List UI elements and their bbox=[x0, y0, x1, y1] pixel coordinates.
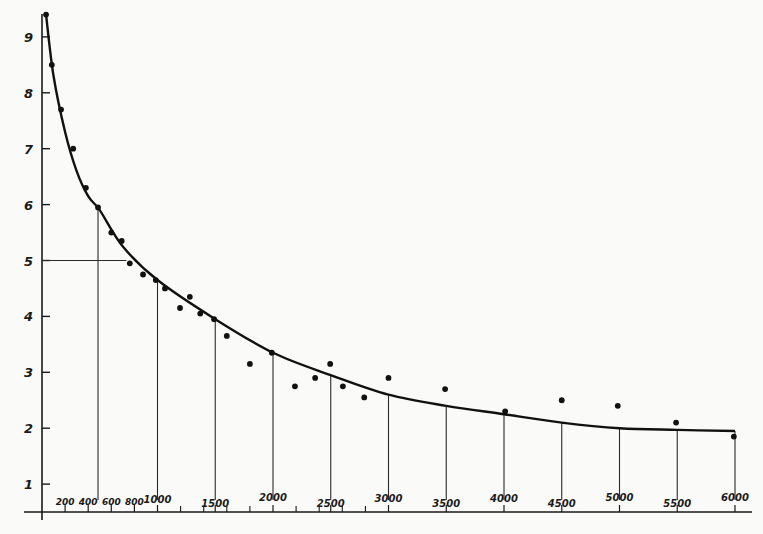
chart: 123456789 200400600800100015002000250030… bbox=[0, 0, 763, 534]
data-point bbox=[43, 12, 49, 18]
data-point bbox=[502, 409, 508, 415]
x-tick-label: 400 bbox=[78, 497, 98, 507]
data-point bbox=[312, 375, 318, 381]
fitted-curve bbox=[46, 15, 735, 431]
data-points bbox=[43, 12, 737, 440]
data-point bbox=[95, 204, 101, 210]
data-point bbox=[559, 397, 565, 403]
data-point bbox=[127, 260, 133, 266]
data-point bbox=[70, 146, 76, 152]
data-point bbox=[340, 383, 346, 389]
data-point bbox=[187, 294, 193, 300]
x-tick-label: 200 bbox=[56, 497, 75, 507]
y-tick-label: 7 bbox=[24, 142, 34, 157]
data-point bbox=[327, 361, 333, 367]
x-ticks: 2004006008001000150020002500300035004000… bbox=[56, 492, 749, 512]
data-point bbox=[361, 395, 367, 401]
y-tick-label: 5 bbox=[24, 254, 33, 269]
y-tick-label: 9 bbox=[24, 30, 33, 45]
data-point bbox=[247, 361, 253, 367]
data-point bbox=[615, 403, 621, 409]
y-tick-label: 6 bbox=[24, 198, 33, 213]
data-point bbox=[119, 238, 125, 244]
y-tick-label: 1 bbox=[24, 477, 33, 492]
drop-lines bbox=[98, 208, 735, 500]
y-tick-label: 3 bbox=[24, 365, 33, 380]
data-point bbox=[442, 386, 448, 392]
data-point bbox=[153, 277, 159, 283]
y-tick-label: 8 bbox=[24, 86, 33, 101]
data-point bbox=[49, 62, 55, 68]
data-point bbox=[83, 185, 89, 191]
y-tick-label: 2 bbox=[24, 421, 33, 436]
data-point bbox=[177, 305, 183, 311]
x-tick-label: 800 bbox=[125, 497, 144, 507]
data-point bbox=[162, 286, 168, 292]
data-point bbox=[211, 316, 217, 322]
data-point bbox=[224, 333, 230, 339]
data-point bbox=[197, 311, 203, 317]
data-point bbox=[292, 383, 298, 389]
data-point bbox=[731, 434, 737, 440]
x-tick-label: 600 bbox=[102, 497, 121, 507]
data-point bbox=[58, 107, 64, 113]
data-point bbox=[673, 420, 679, 426]
data-point bbox=[269, 350, 275, 356]
data-point bbox=[386, 375, 392, 381]
data-point bbox=[108, 230, 114, 236]
y-tick-label: 4 bbox=[23, 309, 33, 324]
data-point bbox=[140, 272, 146, 278]
